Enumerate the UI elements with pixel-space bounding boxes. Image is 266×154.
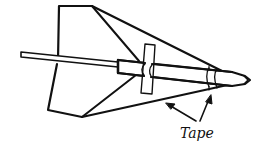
tape-arrow-left	[166, 103, 196, 121]
tape-label: Tape	[180, 126, 214, 140]
tube	[118, 60, 250, 86]
glider-drawing	[0, 0, 266, 154]
rod	[21, 52, 118, 67]
tape-arrow-right	[200, 95, 212, 121]
glider-diagram: Tape	[0, 0, 266, 154]
